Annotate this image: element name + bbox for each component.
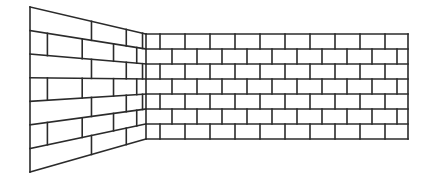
right-brick-wall bbox=[146, 34, 408, 139]
left-brick-wall bbox=[30, 7, 146, 172]
left-wall-course-line bbox=[30, 7, 146, 34]
brick-wall-drawing bbox=[0, 0, 424, 183]
brick-walls-svg bbox=[0, 0, 424, 183]
